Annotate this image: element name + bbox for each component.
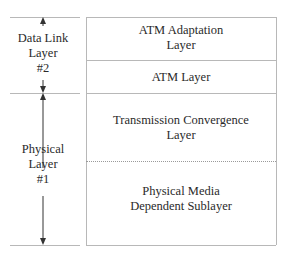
label-line: Physical	[5, 142, 81, 157]
label-line: #1	[5, 172, 81, 187]
label-line: Transmission Convergence	[86, 113, 276, 128]
label-line: Physical Media	[86, 184, 276, 199]
atm-adaptation-layer-label: ATM Adaptation Layer	[86, 23, 276, 53]
physical-layer-label: Physical Layer #1	[5, 142, 81, 187]
label-line: Data Link	[5, 31, 81, 46]
label-line: ATM Adaptation	[86, 23, 276, 38]
label-line: Dependent Sublayer	[86, 199, 276, 214]
label-line: #2	[5, 61, 81, 76]
atm-layer-label: ATM Layer	[86, 70, 276, 85]
label-line: Layer	[86, 38, 276, 53]
label-line: ATM Layer	[86, 70, 276, 85]
physical-media-dependent-label: Physical Media Dependent Sublayer	[86, 184, 276, 214]
label-line: Layer	[5, 157, 81, 172]
label-line: Layer	[5, 46, 81, 61]
label-line: Layer	[86, 128, 276, 143]
data-link-layer-label: Data Link Layer #2	[5, 31, 81, 76]
transmission-convergence-label: Transmission Convergence Layer	[86, 113, 276, 143]
